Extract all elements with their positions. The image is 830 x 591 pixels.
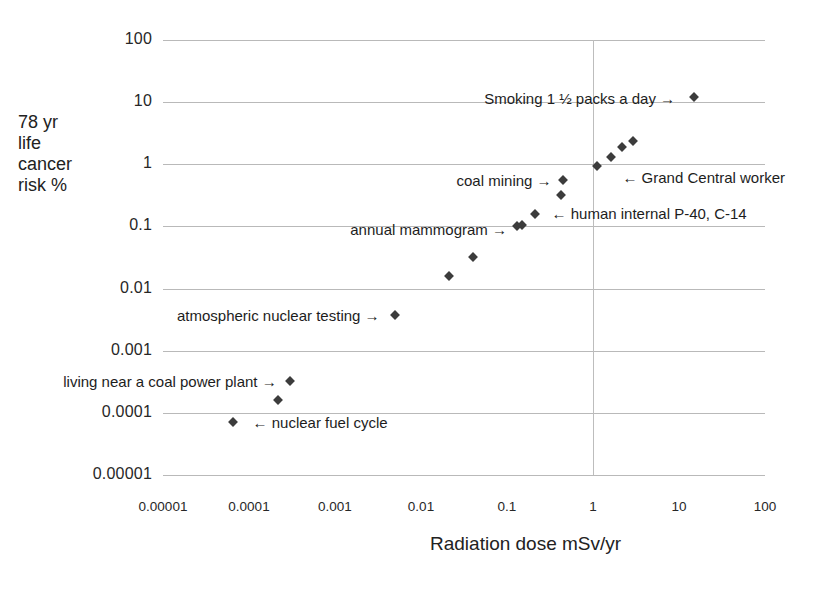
x-axis-tick-label: 100 — [715, 499, 815, 514]
y-axis-tick-label: 0.00001 — [30, 465, 152, 483]
data-point — [558, 175, 568, 185]
data-point — [285, 377, 295, 387]
y-axis-tick-label: 0.001 — [30, 341, 152, 359]
point-annotation-label: ← Grand Central worker — [622, 169, 785, 186]
x-axis-tick-label: 10 — [629, 499, 729, 514]
point-annotation-label: annual mammogram → — [350, 220, 507, 237]
y-axis-tick-label: 0.1 — [30, 216, 152, 234]
point-annotation-label: atmospheric nuclear testing → — [177, 306, 380, 323]
y-axis-title-line-1: 78 yr — [18, 112, 148, 133]
x-axis-tick-label: 0.00001 — [113, 499, 213, 514]
data-point — [228, 418, 238, 428]
data-point — [617, 142, 627, 152]
point-annotation-label: ← nuclear fuel cycle — [253, 414, 388, 431]
data-point — [390, 310, 400, 320]
y-axis-title-line-2: life — [18, 133, 148, 154]
data-point — [606, 152, 616, 162]
y-axis-tick-label: 10 — [30, 92, 152, 110]
point-annotation-label: Smoking 1 ½ packs a day → — [484, 90, 675, 107]
y-axis-tick-label: 100 — [30, 30, 152, 48]
data-point — [628, 136, 638, 146]
x-axis-tick-label: 0.0001 — [199, 499, 299, 514]
point-annotation-label: coal mining → — [457, 172, 552, 189]
data-point — [530, 209, 540, 219]
y-axis-tick-label: 0.0001 — [30, 403, 152, 421]
gridline-horizontal — [163, 40, 765, 41]
gridline-horizontal — [163, 351, 765, 352]
x-axis-tick-label: 0.001 — [285, 499, 385, 514]
data-point — [689, 92, 699, 102]
y-axis-tick-label: 0.01 — [30, 279, 152, 297]
x-axis-tick-label: 0.01 — [371, 499, 471, 514]
data-point — [273, 395, 283, 405]
y-axis-title-line-4: risk % — [18, 175, 148, 196]
point-annotation-label: ← human internal P-40, C-14 — [552, 204, 747, 221]
x-axis-tick-label: 1 — [543, 499, 643, 514]
data-point — [468, 252, 478, 262]
radiation-risk-scatter-chart: 78 yr life cancer risk % Radiation dose … — [0, 0, 830, 591]
x-axis-title: Radiation dose mSv/yr — [430, 533, 621, 555]
y-axis-tick-label: 1 — [30, 154, 152, 172]
gridline-horizontal — [163, 289, 765, 290]
gridline-horizontal — [163, 164, 765, 165]
data-point — [556, 190, 566, 200]
point-annotation-label: living near a coal power plant → — [63, 372, 276, 389]
gridline-horizontal — [163, 475, 765, 476]
x-axis-tick-label: 0.1 — [457, 499, 557, 514]
data-point — [444, 271, 454, 281]
